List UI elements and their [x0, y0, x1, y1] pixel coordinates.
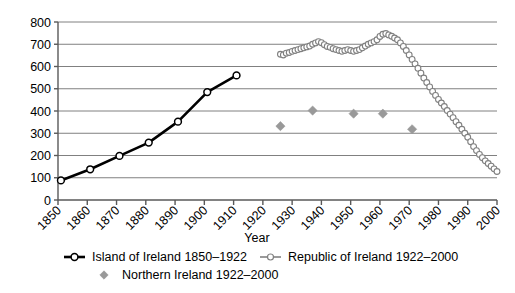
x-tick-label: 1870: [93, 203, 123, 233]
legend-item[interactable]: Northern Ireland 1922–2000: [100, 268, 279, 282]
y-tick-label: 500: [30, 82, 51, 96]
x-tick-label: 1880: [122, 203, 152, 233]
series-2: [276, 106, 417, 134]
series-1: [278, 31, 500, 175]
data-point-marker: [408, 125, 417, 134]
data-point-marker: [378, 109, 387, 118]
y-axis-tick-labels: 0100200300400500600700800: [30, 16, 51, 208]
data-point-marker: [58, 177, 65, 184]
data-point-marker: [349, 109, 358, 118]
data-point-marker: [87, 166, 94, 173]
data-point-marker: [233, 72, 240, 79]
y-tick-label: 400: [30, 105, 51, 119]
y-tick-label: 100: [30, 171, 51, 185]
data-point-marker: [204, 89, 211, 96]
x-tick-label: 1860: [64, 203, 94, 233]
x-axis-ticks: [58, 200, 497, 205]
x-tick-label: 1910: [210, 203, 240, 233]
x-tick-label: 1970: [386, 203, 416, 233]
legend-item-label: Island of Ireland 1850–1922: [92, 250, 247, 264]
legend-item-label: Northern Ireland 1922–2000: [122, 268, 278, 282]
data-point-marker: [308, 106, 317, 115]
data-series-layer: [58, 31, 500, 184]
data-point-marker: [494, 169, 500, 175]
legend-item[interactable]: Republic of Ireland 1922–2000: [260, 250, 458, 264]
chart-legend: Island of Ireland 1850–1922Republic of I…: [64, 250, 458, 282]
data-point-marker: [116, 153, 123, 160]
x-tick-label: 1980: [415, 203, 445, 233]
y-tick-label: 200: [30, 149, 51, 163]
legend-diamond-icon: [100, 271, 108, 279]
legend-item-label: Republic of Ireland 1922–2000: [288, 250, 458, 264]
x-tick-label: 1930: [269, 203, 299, 233]
x-tick-label: 1850: [35, 203, 65, 233]
x-tick-label: 1940: [298, 203, 328, 233]
x-tick-label: 1990: [444, 203, 474, 233]
legend-circle-icon: [71, 254, 78, 261]
x-axis-tick-labels: 1850186018701880189019001910192019301940…: [35, 203, 504, 233]
y-tick-label: 800: [30, 16, 51, 30]
x-tick-label: 1950: [327, 203, 357, 233]
x-tick-label: 1920: [239, 203, 269, 233]
x-tick-label: 1960: [356, 203, 386, 233]
y-tick-label: 700: [30, 38, 51, 52]
legend-circle-icon: [268, 254, 274, 260]
data-point-marker: [145, 139, 152, 146]
x-axis-title: Year: [244, 231, 269, 245]
series-line: [280, 34, 497, 172]
legend-item[interactable]: Island of Ireland 1850–1922: [64, 250, 247, 264]
data-point-marker: [276, 122, 285, 131]
x-tick-label: 1890: [152, 203, 182, 233]
chart-container: 0100200300400500600700800 18501860187018…: [0, 0, 515, 293]
y-tick-label: 300: [30, 127, 51, 141]
population-line-chart: 0100200300400500600700800 18501860187018…: [0, 0, 515, 293]
y-tick-label: 600: [30, 60, 51, 74]
x-tick-label: 1900: [181, 203, 211, 233]
x-tick-label: 2000: [474, 203, 504, 233]
data-point-marker: [175, 118, 182, 125]
y-tick-label: 0: [44, 194, 51, 208]
